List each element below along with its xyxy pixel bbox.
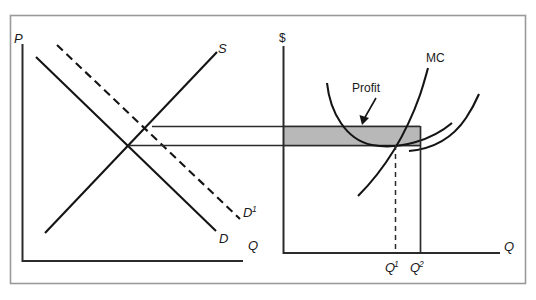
profit-arrow-shaft: [364, 98, 376, 119]
market-x-axis-label: Q: [248, 238, 258, 253]
demand-shifted-label-superscript: 1: [252, 204, 257, 214]
demand-shifted-curve-label: D 1: [243, 204, 257, 220]
supply-curve-label: S: [218, 41, 227, 56]
economics-figure: P S D D 1 Q: [0, 0, 536, 300]
profit-arrow-head: [360, 115, 370, 125]
demand-curve: [36, 57, 216, 231]
figure-canvas: P S D D 1 Q: [0, 0, 536, 300]
q2-label-superscript: 2: [418, 259, 424, 269]
q2-tick-label: Q 2: [410, 259, 424, 275]
market-diagram: P S D D 1 Q: [14, 31, 258, 262]
marginal-cost-label: MC: [426, 51, 445, 65]
q1-label-superscript: 1: [394, 259, 399, 269]
profit-label: Profit: [352, 81, 381, 95]
market-y-axis-label: P: [14, 31, 23, 46]
q1-tick-label: Q 1: [385, 259, 399, 275]
firm-y-axis-label: $: [279, 31, 286, 45]
firm-diagram: Profit MC $ Q Q 1 Q 2: [279, 31, 514, 275]
demand-curve-label: D: [219, 231, 228, 246]
outer-frame: [11, 16, 526, 284]
demand-shifted-label-base: D: [243, 205, 252, 220]
firm-x-axis-label: Q: [504, 239, 514, 254]
profit-annotation: Profit: [352, 81, 381, 125]
